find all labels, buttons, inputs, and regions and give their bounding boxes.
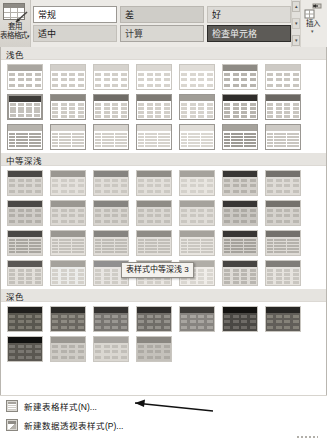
table-style-tile-light-5[interactable] [179, 64, 215, 90]
table-style-tile-medium-3[interactable] [93, 170, 129, 196]
scroll-down-button[interactable]: ▾ [292, 18, 300, 29]
table-style-tile-dark-11[interactable] [136, 336, 172, 362]
tile-row [138, 103, 170, 106]
table-style-tile-light-4[interactable] [136, 64, 172, 90]
tile-body [180, 131, 214, 149]
table-style-tile-medium-21[interactable] [265, 230, 301, 256]
table-style-tile-medium-5[interactable] [179, 170, 215, 196]
table-style-tile-light-6[interactable] [222, 64, 258, 90]
table-style-tile-dark-8[interactable] [7, 336, 43, 362]
table-style-tile-medium-1[interactable] [7, 170, 43, 196]
tile-row [138, 214, 170, 217]
cell-style-check-cell[interactable]: 检查单元格 [207, 25, 291, 42]
tile-body [94, 237, 128, 255]
scroll-up-button[interactable]: ▴ [292, 1, 300, 12]
table-style-tile-medium-15[interactable] [7, 230, 43, 256]
table-style-tile-dark-6[interactable] [222, 306, 258, 332]
table-style-tile-light-3[interactable] [93, 64, 129, 90]
table-style-tile-medium-10[interactable] [93, 200, 129, 226]
tile-column [65, 132, 71, 148]
table-style-tile-medium-11[interactable] [136, 200, 172, 226]
table-style-tile-light-18[interactable] [136, 124, 172, 150]
table-style-tile-light-19[interactable] [179, 124, 215, 150]
tile-row [95, 345, 127, 348]
table-style-tile-light-9[interactable] [50, 94, 86, 120]
table-style-tile-medium-17[interactable] [93, 230, 129, 256]
table-style-tile-medium-12[interactable] [179, 200, 215, 226]
tile-column [29, 132, 35, 148]
tile-row [267, 73, 299, 76]
cell-style-normal[interactable]: 常规 [33, 6, 117, 23]
table-style-tile-light-14[interactable] [265, 94, 301, 120]
cell-style-calculation[interactable]: 计算 [120, 25, 204, 42]
tile-column [201, 238, 207, 254]
tile-column [151, 132, 157, 148]
resize-grip[interactable] [296, 435, 318, 439]
table-style-tile-medium-23[interactable] [50, 260, 86, 286]
cell-style-neutral[interactable]: 适中 [33, 25, 117, 42]
table-style-tile-medium-6[interactable] [222, 170, 258, 196]
table-style-tile-light-15[interactable] [7, 124, 43, 150]
table-style-tile-medium-28[interactable] [265, 260, 301, 286]
table-style-tile-light-21[interactable] [265, 124, 301, 150]
table-style-tile-light-11[interactable] [136, 94, 172, 120]
table-style-tile-medium-20[interactable] [222, 230, 258, 256]
table-style-tile-dark-9[interactable] [50, 336, 86, 362]
tile-column [78, 132, 84, 148]
table-style-tile-light-12[interactable] [179, 94, 215, 120]
tile-body [180, 207, 214, 225]
table-style-tile-light-17[interactable] [93, 124, 129, 150]
tile-body [266, 131, 300, 149]
insert-cells-button[interactable]: 插入 ▾ [301, 3, 325, 34]
tile-body [8, 71, 42, 89]
table-style-tile-light-2[interactable] [50, 64, 86, 90]
table-style-tile-light-7[interactable] [265, 64, 301, 90]
table-style-tile-light-1[interactable] [7, 64, 43, 90]
table-style-tile-dark-5[interactable] [179, 306, 215, 332]
tile-row [224, 184, 256, 187]
table-style-tile-light-20[interactable] [222, 124, 258, 150]
table-style-tile-light-10[interactable] [93, 94, 129, 120]
table-style-tile-light-8[interactable] [7, 94, 43, 120]
table-style-tile-medium-2[interactable] [50, 170, 86, 196]
tile-row [138, 184, 170, 187]
tile-row [224, 84, 256, 87]
tile-row [181, 214, 213, 217]
cell-style-bad[interactable]: 差 [120, 6, 204, 23]
cell-styles-scrollbar[interactable]: ▴ ▾ ▾ [291, 0, 300, 47]
table-style-tile-medium-4[interactable] [136, 170, 172, 196]
table-style-tile-medium-13[interactable] [222, 200, 258, 226]
table-style-tile-dark-7[interactable] [265, 306, 301, 332]
cell-style-good[interactable]: 好 [207, 6, 291, 23]
table-style-tile-medium-9[interactable] [50, 200, 86, 226]
tile-row [181, 281, 213, 284]
menu-item-new-pivot-style[interactable]: 新建数据透视表样式(P)... [0, 415, 327, 434]
tile-column [231, 238, 237, 254]
table-style-tile-medium-27[interactable] [222, 260, 258, 286]
tile-column [102, 132, 108, 148]
tile-row [9, 190, 41, 193]
table-style-tile-medium-22[interactable] [7, 260, 43, 286]
table-style-tile-medium-19[interactable] [179, 230, 215, 256]
table-style-tile-medium-18[interactable] [136, 230, 172, 256]
table-style-tile-medium-7[interactable] [265, 170, 301, 196]
tile-column [121, 132, 127, 148]
tile-column [274, 132, 280, 148]
tile-row [138, 107, 170, 110]
table-style-tile-dark-10[interactable] [93, 336, 129, 362]
tile-column [164, 238, 170, 254]
table-style-tile-dark-4[interactable] [136, 306, 172, 332]
table-style-tile-dark-1[interactable] [7, 306, 43, 332]
table-style-tile-dark-2[interactable] [50, 306, 86, 332]
tile-body [9, 102, 41, 118]
table-style-tile-medium-14[interactable] [265, 200, 301, 226]
insert-cells-caret[interactable]: ▾ [311, 28, 314, 34]
scroll-more-button[interactable]: ▾ [292, 35, 300, 46]
table-style-tile-medium-16[interactable] [50, 230, 86, 256]
table-style-tile-dark-3[interactable] [93, 306, 129, 332]
table-style-tile-light-16[interactable] [50, 124, 86, 150]
table-style-tile-medium-8[interactable] [7, 200, 43, 226]
apply-table-format-button[interactable]: 套用 表格格式▾ [0, 0, 31, 47]
tile-body [94, 101, 128, 119]
table-style-tile-light-13[interactable] [222, 94, 258, 120]
